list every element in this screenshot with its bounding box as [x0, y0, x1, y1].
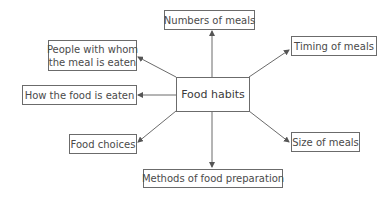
node-how-the-food-is-eaten: How the food is eaten	[22, 85, 137, 105]
node-label-line1: People with whom	[47, 43, 138, 56]
node-label: Numbers of meals	[164, 14, 255, 27]
node-timing-of-meals: Timing of meals	[291, 36, 377, 56]
node-methods-of-food-preparation: Methods of food preparation	[143, 169, 283, 188]
center-node-food-habits: Food habits	[176, 77, 250, 112]
center-label: Food habits	[181, 88, 245, 101]
arrow-to-size	[249, 111, 289, 142]
node-label: Size of meals	[292, 136, 359, 149]
node-numbers-of-meals: Numbers of meals	[164, 10, 255, 30]
node-people-with-whom-meal-is-eaten: People with whom the meal is eaten	[48, 40, 137, 71]
arrow-to-timing	[249, 50, 289, 77]
node-label: Timing of meals	[294, 40, 374, 53]
node-label-line2: the meal is eaten	[49, 56, 136, 69]
node-size-of-meals: Size of meals	[291, 132, 360, 152]
node-label: How the food is eaten	[25, 89, 135, 102]
arrow-to-people	[138, 57, 176, 77]
node-label: Food choices	[71, 138, 136, 151]
node-label: Methods of food preparation	[142, 172, 284, 185]
node-food-choices: Food choices	[69, 134, 137, 154]
arrow-to-choices	[138, 111, 176, 142]
